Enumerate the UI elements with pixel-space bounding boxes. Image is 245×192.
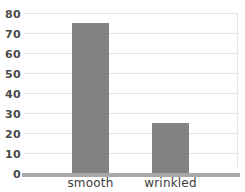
plot-area bbox=[24, 8, 238, 176]
x-axis-label-wrinkled: wrinkled bbox=[130, 176, 211, 190]
bar-wrinkled bbox=[152, 123, 189, 173]
gridline-70 bbox=[24, 33, 238, 34]
y-axis-tick-30: 30 bbox=[0, 109, 21, 120]
bar-chart: 80 70 60 50 40 30 20 10 0 smooth wrinkle… bbox=[0, 0, 245, 192]
gridline-30 bbox=[24, 113, 238, 114]
y-axis-tick-60: 60 bbox=[0, 49, 21, 60]
y-axis-tick-40: 40 bbox=[0, 89, 21, 100]
gridline-20 bbox=[24, 133, 238, 134]
gridline-60 bbox=[24, 53, 238, 54]
y-axis-tick-50: 50 bbox=[0, 69, 21, 80]
y-axis-tick-20: 20 bbox=[0, 129, 21, 140]
x-axis-category-labels: smooth wrinkled bbox=[24, 176, 238, 192]
y-axis-tick-70: 70 bbox=[0, 29, 21, 40]
gridline-40 bbox=[24, 93, 238, 94]
gridline-80 bbox=[24, 13, 238, 14]
y-axis-tick-80: 80 bbox=[0, 9, 21, 20]
y-axis-tick-labels: 80 70 60 50 40 30 20 10 0 bbox=[0, 8, 21, 176]
y-axis-tick-10: 10 bbox=[0, 149, 21, 160]
bar-smooth bbox=[72, 23, 109, 173]
y-axis-tick-0: 0 bbox=[0, 169, 21, 180]
plot-right-border bbox=[237, 14, 238, 170]
gridline-10 bbox=[24, 153, 238, 154]
gridline-50 bbox=[24, 73, 238, 74]
x-axis-label-smooth: smooth bbox=[50, 176, 131, 190]
